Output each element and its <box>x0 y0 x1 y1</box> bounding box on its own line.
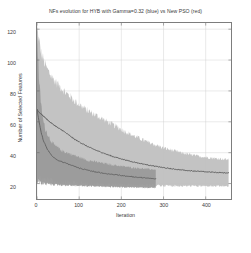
ytick-label-80: 80 <box>0 91 16 97</box>
xtick-label-0: 0 <box>26 202 46 208</box>
ytick-label-40: 40 <box>0 153 16 159</box>
y-axis-label: Number of Selected Features <box>17 38 23 178</box>
xtick-label-100: 100 <box>69 202 89 208</box>
xtick-label-300: 300 <box>154 202 174 208</box>
figure-canvas: NFs evolution for HYB with Gamma=0.32 (b… <box>0 0 251 253</box>
chart-title: NFs evolution for HYB with Gamma=0.32 (b… <box>0 8 251 14</box>
ytick-label-120: 120 <box>0 29 16 35</box>
ytick-label-60: 60 <box>0 122 16 128</box>
xtick-label-400: 400 <box>196 202 216 208</box>
plot-svg <box>37 23 231 199</box>
plot-area <box>36 22 232 200</box>
ytick-label-100: 100 <box>0 60 16 66</box>
ytick-label-20: 20 <box>0 184 16 190</box>
x-axis-label: Iteration <box>0 212 251 218</box>
xtick-label-200: 200 <box>111 202 131 208</box>
